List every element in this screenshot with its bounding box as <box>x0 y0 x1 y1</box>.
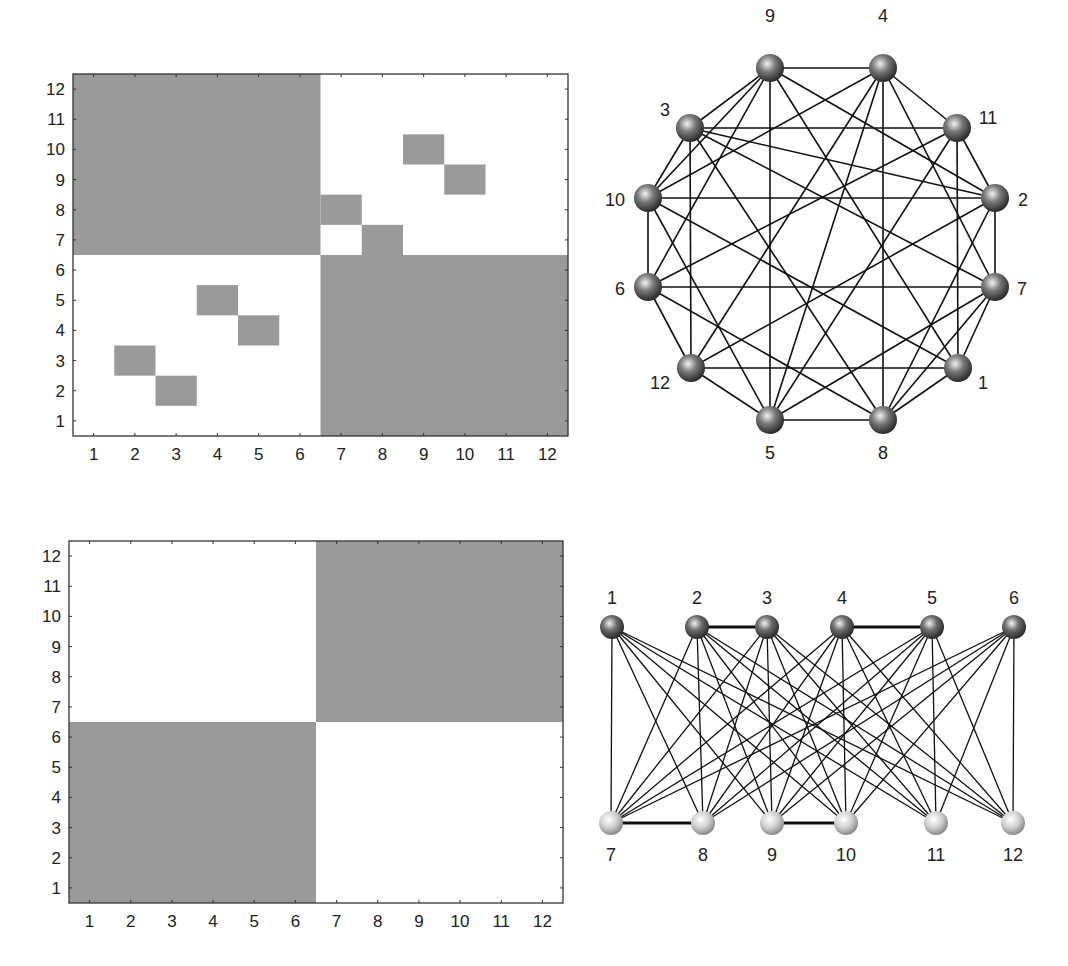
bipartite-graph-canvas: 123456789101112 <box>590 580 1068 880</box>
x-tick-label: 2 <box>126 912 135 931</box>
filled-cell <box>362 225 403 255</box>
x-tick-label: 1 <box>89 445 98 464</box>
x-tick-label: 6 <box>295 445 304 464</box>
graph-edge <box>932 627 1013 823</box>
filled-cell <box>321 195 362 225</box>
graph-edge <box>703 627 932 823</box>
y-tick-label: 11 <box>47 110 65 129</box>
graph-edge <box>611 627 612 823</box>
graph-node-1 <box>944 354 972 382</box>
filled-cell <box>238 315 279 345</box>
node-label: 3 <box>660 100 670 120</box>
graph-node-11 <box>943 114 971 142</box>
graph-edge <box>883 68 957 128</box>
filled-cell <box>403 134 444 164</box>
node-label: 10 <box>605 190 625 210</box>
adjacency-matrix-top: 123456789101112123456789101112 <box>0 40 590 480</box>
x-tick-label: 12 <box>538 445 557 464</box>
graph-edge <box>883 287 995 420</box>
graph-node-4 <box>830 615 854 639</box>
node-label: 5 <box>927 588 937 608</box>
y-tick-label: 7 <box>56 231 65 250</box>
graph-edge <box>883 68 995 287</box>
x-tick-label: 8 <box>373 912 382 931</box>
filled-cell <box>197 285 238 315</box>
graph-node-9 <box>760 811 784 835</box>
graph-node-4 <box>869 54 897 82</box>
y-tick-label: 1 <box>52 879 61 898</box>
graph-node-9 <box>756 54 784 82</box>
matrix-plot-1: 123456789101112123456789101112 <box>0 40 590 480</box>
x-tick-label: 12 <box>533 912 552 931</box>
y-tick-label: 12 <box>46 80 65 99</box>
x-tick-label: 11 <box>492 912 510 931</box>
graph-edge <box>842 627 1013 823</box>
graph-node-3 <box>755 615 779 639</box>
graph-edge <box>846 627 1014 823</box>
graph-edge <box>772 627 932 823</box>
node-label: 12 <box>1003 845 1023 865</box>
x-tick-label: 10 <box>455 445 474 464</box>
graph-edge <box>648 128 957 287</box>
y-tick-label: 4 <box>56 321 65 340</box>
graph-edge <box>1013 627 1014 823</box>
x-tick-label: 9 <box>419 445 428 464</box>
graph-node-2 <box>981 184 1009 212</box>
x-tick-label: 5 <box>254 445 263 464</box>
graph-node-3 <box>676 114 704 142</box>
filled-cell <box>444 165 485 195</box>
y-tick-label: 8 <box>52 668 61 687</box>
node-label: 1 <box>978 373 988 393</box>
filled-block <box>316 541 563 722</box>
y-tick-label: 12 <box>42 547 61 566</box>
filled-cell <box>114 346 155 376</box>
graph-node-8 <box>691 811 715 835</box>
x-tick-label: 6 <box>291 912 300 931</box>
graph-edge <box>691 198 995 368</box>
filled-block <box>321 255 569 436</box>
node-label: 6 <box>615 279 625 299</box>
y-tick-label: 3 <box>56 352 65 371</box>
adjacency-matrix-bottom: 123456789101112123456789101112 <box>0 510 590 950</box>
y-tick-label: 10 <box>42 607 61 626</box>
graph-node-7 <box>981 273 1009 301</box>
graph-edge <box>611 627 697 823</box>
bipartite-graph: 123456789101112 <box>590 580 1068 880</box>
x-tick-label: 10 <box>451 912 470 931</box>
matrix-plot-2: 123456789101112123456789101112 <box>0 510 590 950</box>
x-tick-label: 2 <box>130 445 139 464</box>
node-label: 11 <box>927 845 946 865</box>
y-tick-label: 2 <box>56 382 65 401</box>
x-tick-label: 3 <box>167 912 176 931</box>
y-tick-label: 10 <box>46 140 65 159</box>
graph-node-6 <box>1002 615 1026 639</box>
y-tick-label: 9 <box>56 171 65 190</box>
graph-edge <box>612 627 846 823</box>
node-label: 2 <box>692 588 702 608</box>
graph-node-10 <box>834 811 858 835</box>
y-tick-label: 8 <box>56 201 65 220</box>
node-label: 4 <box>878 6 888 26</box>
node-label: 3 <box>762 588 772 608</box>
graph-edge <box>690 128 883 420</box>
node-label: 9 <box>767 845 777 865</box>
graph-edge <box>690 128 995 287</box>
y-tick-label: 9 <box>52 638 61 657</box>
x-tick-label: 7 <box>332 912 341 931</box>
circular-graph: 941127185126103 <box>590 0 1068 480</box>
node-label: 5 <box>765 443 775 463</box>
node-label: 8 <box>698 845 708 865</box>
y-tick-label: 5 <box>56 291 65 310</box>
node-label: 7 <box>1017 279 1027 299</box>
x-tick-label: 8 <box>378 445 387 464</box>
node-label: 8 <box>878 443 888 463</box>
graph-edge <box>767 627 1013 823</box>
y-tick-label: 11 <box>43 577 61 596</box>
x-tick-label: 9 <box>414 912 423 931</box>
x-tick-label: 1 <box>85 912 94 931</box>
graph-node-8 <box>869 406 897 434</box>
x-tick-label: 3 <box>171 445 180 464</box>
x-tick-label: 7 <box>336 445 345 464</box>
y-tick-label: 7 <box>52 698 61 717</box>
graph-edge <box>932 627 936 823</box>
